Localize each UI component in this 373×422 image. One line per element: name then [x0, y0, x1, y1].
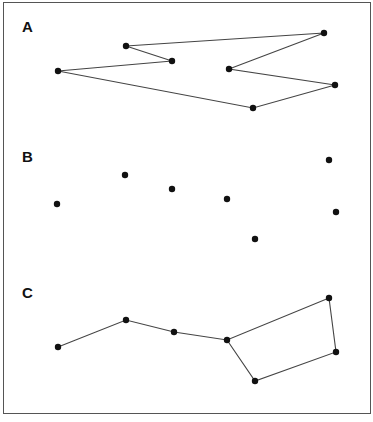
panel-a-diagram: [55, 30, 338, 111]
dot: [333, 209, 339, 215]
dot: [123, 43, 129, 49]
dot: [326, 295, 332, 301]
dot: [332, 82, 338, 88]
dot: [55, 68, 61, 74]
dot: [224, 196, 230, 202]
dot: [54, 201, 60, 207]
dot: [224, 337, 230, 343]
dot: [169, 186, 175, 192]
panel-c-diagram: [55, 295, 339, 384]
dot: [250, 105, 256, 111]
dot: [321, 30, 327, 36]
panel-b-diagram: [54, 157, 339, 242]
dot: [252, 236, 258, 242]
dot: [55, 344, 61, 350]
connecting-line: [58, 33, 335, 108]
dot: [122, 172, 128, 178]
dot: [252, 378, 258, 384]
dot: [169, 58, 175, 64]
dot: [333, 349, 339, 355]
connecting-line: [58, 298, 336, 381]
dot: [171, 329, 177, 335]
dot: [326, 157, 332, 163]
dot-diagram: [0, 0, 373, 422]
dot: [123, 317, 129, 323]
dot: [226, 66, 232, 72]
